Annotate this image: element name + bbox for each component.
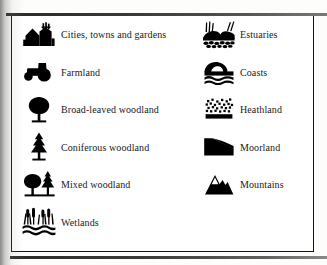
legend-label: Coniferous woodland <box>61 142 149 153</box>
mixed-woodland-icon <box>18 168 60 202</box>
legend-item-moorland: Moorland <box>198 129 313 167</box>
legend-item-cities-towns-gardens: Cities, towns and gardens <box>16 16 194 54</box>
cities-towns-gardens-icon <box>18 18 60 52</box>
legend-label: Estuaries <box>240 29 278 40</box>
legend-label: Heathland <box>240 104 282 115</box>
legend-item-wetlands: Wetlands <box>16 204 194 242</box>
legend-label: Moorland <box>240 142 280 153</box>
legend-item-heathland: Heathland <box>198 91 313 129</box>
coasts-wave-icon <box>199 55 239 89</box>
legend-label: Mixed woodland <box>61 179 130 190</box>
legend-item-estuaries: Estuaries <box>198 16 313 54</box>
map-legend-panel: Cities, towns and gardens <box>11 15 314 252</box>
legend-label: Cities, towns and gardens <box>61 29 166 40</box>
coniferous-tree-icon <box>18 130 60 164</box>
legend-label: Wetlands <box>61 217 99 228</box>
legend-label: Mountains <box>240 179 284 190</box>
legend-label: Broad-leaved woodland <box>61 104 159 115</box>
page-bottom-rule <box>10 256 327 259</box>
legend-item-coniferous-woodland: Coniferous woodland <box>16 129 194 167</box>
mountains-icon <box>199 168 239 202</box>
legend-item-mountains: Mountains <box>198 166 313 204</box>
estuaries-icon <box>199 18 239 52</box>
broad-leaved-tree-icon <box>18 93 60 127</box>
legend-column-right: Estuaries <box>198 16 313 251</box>
legend-column-left: Cities, towns and gardens <box>16 16 194 251</box>
wetlands-reeds-icon <box>18 205 60 239</box>
legend-item-coasts: Coasts <box>198 54 313 92</box>
legend-item-farmland: Farmland <box>16 54 194 92</box>
heathland-icon <box>199 93 239 127</box>
farmland-tractor-icon <box>18 55 60 89</box>
legend-item-mixed-woodland: Mixed woodland <box>16 166 194 204</box>
legend-item-broad-leaved-woodland: Broad-leaved woodland <box>16 91 194 129</box>
legend-label: Farmland <box>61 67 100 78</box>
legend-columns: Cities, towns and gardens <box>12 16 313 251</box>
page-top-rule <box>6 13 327 16</box>
moorland-icon <box>199 130 239 164</box>
legend-label: Coasts <box>240 67 267 78</box>
